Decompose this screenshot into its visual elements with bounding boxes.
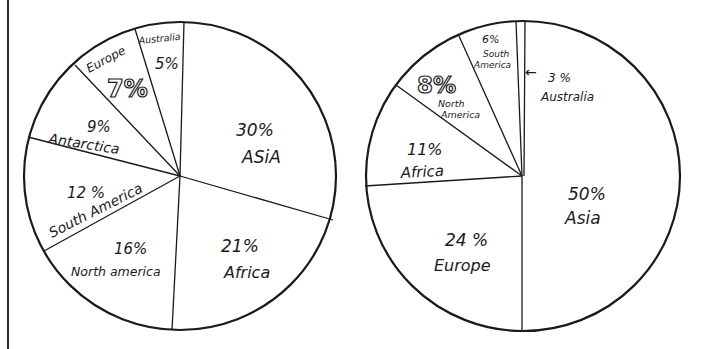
right-australia-arrow-icon: ← (525, 64, 537, 80)
right-asia-pct: 50% (568, 184, 606, 204)
right-south-america-pct: 6% (482, 33, 499, 46)
right-europe-label: Europe (434, 256, 491, 275)
right-north-america-label-2: America (440, 109, 480, 120)
pie-charts: 30% ASiA 21% Africa 16% North america 12… (0, 0, 701, 349)
left-pie-chart: 30% ASiA 21% Africa 16% North america 12… (24, 22, 336, 330)
right-europe-pct: 24 % (445, 230, 488, 250)
right-south-america-label-1: South (483, 49, 509, 59)
right-australia-label: Australia (540, 90, 594, 104)
left-africa-pct: 21% (221, 236, 259, 256)
right-africa-label: Africa (399, 162, 444, 182)
left-europe-pct: 7% (107, 75, 148, 103)
right-south-america-label-2: America (473, 60, 511, 70)
left-antarctica-pct: 9% (87, 118, 111, 136)
chart-page: 30% ASiA 21% Africa 16% North america 12… (0, 0, 701, 349)
left-australia-pct: 5% (155, 55, 179, 73)
right-pie-chart: 50% Asia 24 % Europe 11% Africa 8% North… (365, 21, 680, 331)
right-north-america-label-1: North (438, 98, 465, 109)
right-australia-pct: 3 % (548, 71, 571, 85)
right-africa-pct: 11% (407, 140, 443, 159)
right-north-america-pct: 8% (417, 72, 456, 98)
left-asia-pct: 30% (236, 120, 274, 140)
left-asia-label: ASiA (241, 147, 281, 167)
left-north-america-pct: 16% (114, 240, 147, 258)
right-asia-label: Asia (564, 208, 601, 228)
left-africa-label: Africa (223, 263, 270, 282)
left-north-america-label: North america (71, 264, 161, 279)
